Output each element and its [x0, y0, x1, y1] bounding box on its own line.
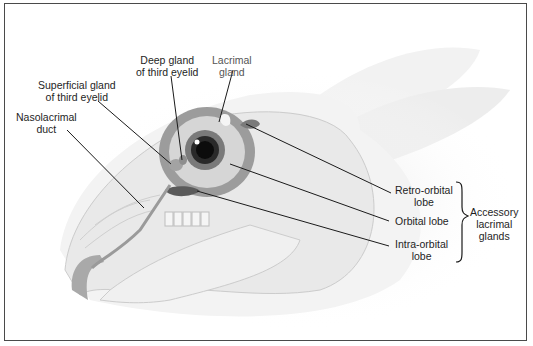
label-superficial-gland: Superficial gland of third eyelid	[38, 79, 116, 103]
label-nasolacrimal-duct: Nasolacrimal duct	[16, 111, 77, 135]
rabbit-head-illustration	[0, 0, 533, 346]
label-retro-orbital-lobe: Retro-orbital lobe	[395, 184, 453, 208]
molar-teeth	[165, 212, 209, 226]
label-intra-orbital-lobe: Intra-orbital lobe	[395, 238, 448, 262]
deep-gland-shape	[179, 155, 187, 165]
label-accessory-lacrimal-glands: Accessory lacrimal glands	[470, 206, 518, 242]
label-orbital-lobe: Orbital lobe	[395, 215, 449, 227]
eye	[185, 130, 225, 170]
label-lacrimal-gland: Lacrimal gland	[212, 54, 252, 78]
label-deep-gland: Deep gland of third eyelid	[136, 54, 198, 78]
